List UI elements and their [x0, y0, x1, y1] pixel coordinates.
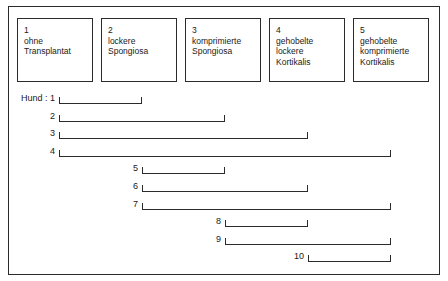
legend-box-2: 2 lockere Spongiosa: [101, 18, 177, 82]
bar-label: 6: [82, 181, 138, 191]
bar-bracket: [142, 167, 225, 174]
bar-chart: Hund : 12345678910: [9, 93, 441, 273]
legend-box-5-number: 5: [360, 25, 428, 36]
legend-box-4-description: gehobelte lockere Kortikalis: [276, 36, 344, 68]
bar-label: Hund : 1: [0, 93, 55, 103]
bar-bracket: [59, 115, 225, 122]
legend-box-2-number: 2: [108, 25, 176, 36]
bar-row: 9: [9, 234, 441, 250]
legend-box-3: 3 komprimierte Spongiosa: [185, 18, 261, 82]
bar-bracket: [59, 97, 142, 104]
bar-label: 3: [0, 128, 55, 138]
bar-row: 5: [9, 163, 441, 179]
bar-bracket: [225, 220, 308, 227]
legend-box-3-description: komprimierte Spongiosa: [192, 36, 260, 57]
legend-box-5: 5 gehobelte komprimierte Kortikalis: [353, 18, 429, 82]
bar-bracket: [142, 185, 308, 192]
legend-box-3-number: 3: [192, 25, 260, 36]
bar-row: 4: [9, 146, 441, 162]
legend-box-1-description: ohne Transplantat: [24, 36, 92, 57]
bar-row: 8: [9, 216, 441, 232]
bar-label: 8: [165, 216, 221, 226]
bar-bracket: [225, 238, 391, 245]
bar-row: 7: [9, 199, 441, 215]
bar-label: 2: [0, 111, 55, 121]
bar-label: 9: [165, 234, 221, 244]
bar-bracket: [59, 150, 391, 157]
bar-bracket: [142, 203, 391, 210]
bar-label: 7: [82, 199, 138, 209]
legend-box-1-number: 1: [24, 25, 92, 36]
bar-bracket: [59, 132, 308, 139]
bar-label: 4: [0, 146, 55, 156]
bar-row: 2: [9, 111, 441, 127]
legend-box-row: 1 ohne Transplantat 2 lockere Spongiosa …: [17, 18, 433, 82]
legend-box-1: 1 ohne Transplantat: [17, 18, 93, 82]
bar-bracket: [308, 255, 391, 262]
bar-row: 10: [9, 251, 441, 267]
bar-label: 10: [248, 251, 304, 261]
legend-box-2-description: lockere Spongiosa: [108, 36, 176, 57]
legend-box-4: 4 gehobelte lockere Kortikalis: [269, 18, 345, 82]
bar-label: 5: [82, 163, 138, 173]
legend-box-4-number: 4: [276, 25, 344, 36]
bar-row: Hund : 1: [9, 93, 441, 109]
legend-box-5-description: gehobelte komprimierte Kortikalis: [360, 36, 428, 68]
bar-row: 6: [9, 181, 441, 197]
figure-frame: 1 ohne Transplantat 2 lockere Spongiosa …: [8, 6, 440, 275]
bar-row: 3: [9, 128, 441, 144]
